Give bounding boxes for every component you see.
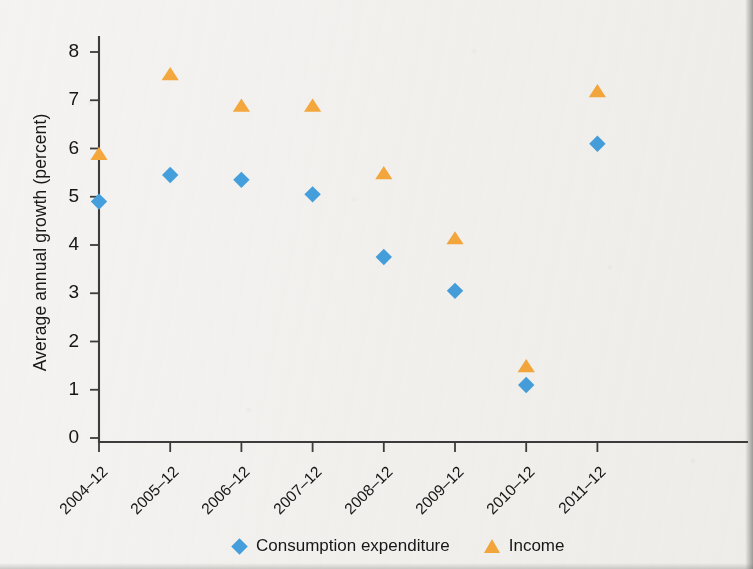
legend-label-consumption-expenditure: Consumption expenditure [256, 536, 450, 556]
data-point-income-2 [233, 98, 250, 111]
diamond-marker-icon [231, 538, 248, 555]
y-tick-label-1: 1 [51, 378, 79, 400]
legend-label-income: Income [509, 536, 565, 556]
tick-marks-layer [90, 52, 597, 452]
data-point-income-7 [589, 84, 606, 97]
data-point-income-5 [446, 231, 463, 244]
y-tick-label-5: 5 [51, 185, 79, 207]
data-point-consumption-expenditure-2 [233, 172, 249, 188]
data-point-consumption-expenditure-5 [447, 283, 463, 299]
data-point-consumption-expenditure-4 [376, 249, 392, 265]
y-tick-label-3: 3 [51, 281, 79, 303]
data-point-consumption-expenditure-7 [589, 135, 605, 151]
legend-entry-income: Income [484, 536, 565, 556]
y-tick-label-6: 6 [51, 137, 79, 159]
legend-entry-consumption-expenditure: Consumption expenditure [232, 536, 450, 556]
data-point-income-3 [304, 98, 321, 111]
y-tick-label-0: 0 [51, 426, 79, 448]
y-axis-title: Average annual growth (percent) [30, 53, 51, 433]
scatter-chart-figure: Average annual growth (percent) 01234567… [0, 0, 753, 569]
data-point-consumption-expenditure-6 [518, 377, 534, 393]
data-point-income-4 [375, 166, 392, 179]
data-point-income-1 [162, 67, 179, 80]
y-tick-label-2: 2 [51, 330, 79, 352]
data-point-consumption-expenditure-0 [91, 193, 107, 209]
y-tick-label-7: 7 [51, 88, 79, 110]
triangle-marker-icon [484, 539, 500, 553]
data-point-income-6 [518, 359, 535, 372]
data-point-consumption-expenditure-3 [304, 186, 320, 202]
chart-legend: Consumption expenditure Income [232, 536, 564, 556]
data-markers-layer [90, 67, 606, 393]
y-tick-label-4: 4 [51, 233, 79, 255]
axis-layer [98, 36, 748, 442]
data-point-consumption-expenditure-1 [162, 167, 178, 183]
y-tick-label-8: 8 [51, 40, 79, 62]
